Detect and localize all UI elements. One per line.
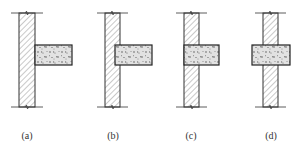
concrete-slab: [184, 45, 219, 65]
panel-a: [11, 11, 72, 109]
concrete-slab: [115, 45, 152, 65]
panel-d: [252, 11, 290, 109]
wall-slab-connection-diagram: [0, 0, 297, 154]
panel-label-b: (b): [98, 130, 128, 141]
panel-label-a: (a): [12, 130, 42, 141]
wall-section: [19, 13, 35, 107]
panel-label-c: (c): [176, 130, 206, 141]
concrete-slab: [252, 45, 290, 65]
concrete-slab: [35, 45, 72, 65]
panel-b: [97, 11, 152, 109]
panel-c: [176, 11, 219, 109]
panel-label-d: (d): [256, 130, 286, 141]
